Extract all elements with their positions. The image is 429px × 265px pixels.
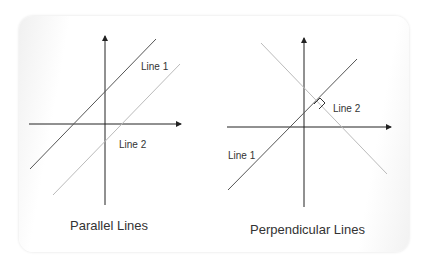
line-2-label: Line 2	[119, 139, 147, 150]
line-2	[53, 64, 180, 195]
line-1	[228, 59, 357, 190]
line-1-label: Line 1	[228, 150, 256, 161]
diagrams-canvas: Line 1 Line 2 Parallel Lines Line 2 Line…	[0, 0, 429, 265]
parallel-lines-diagram: Line 1 Line 2 Parallel Lines	[29, 36, 181, 233]
perpendicular-title: Perpendicular Lines	[250, 222, 365, 237]
line-1-label: Line 1	[141, 61, 169, 72]
parallel-title: Parallel Lines	[70, 218, 149, 233]
line-2-label: Line 2	[333, 103, 361, 114]
line-2	[261, 43, 387, 174]
perpendicular-lines-diagram: Line 2 Line 1 Perpendicular Lines	[227, 38, 391, 237]
